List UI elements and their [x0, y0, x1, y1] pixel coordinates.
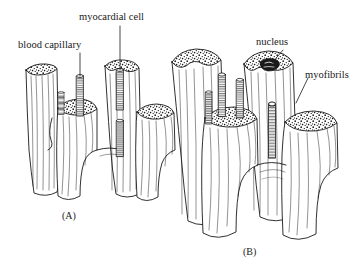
panel-a-artwork [26, 60, 175, 201]
label-blood-capillary: blood capillary [18, 40, 81, 51]
nucleus-shape [260, 58, 279, 71]
panel-caption-a: (A) [62, 210, 76, 221]
label-nucleus: nucleus [256, 37, 288, 48]
figure-container: myocardial cell blood capillary nucleus … [0, 0, 360, 271]
panel-caption-b: (B) [243, 246, 256, 257]
leader-myofibrils [296, 78, 308, 103]
label-myocardial-cell: myocardial cell [79, 12, 144, 23]
label-myofibrils: myofibrils [305, 70, 349, 81]
